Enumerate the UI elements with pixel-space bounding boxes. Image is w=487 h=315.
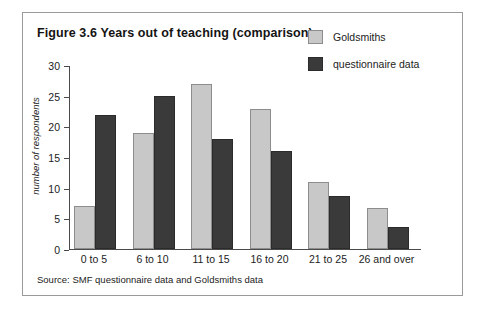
legend-swatch-icon-goldsmiths xyxy=(308,30,323,44)
y-axis-tick: 0 xyxy=(69,250,70,251)
y-axis-tick-label: 30 xyxy=(48,60,60,72)
bar-questionnaire-data xyxy=(212,139,233,249)
bar-questionnaire-data xyxy=(271,151,292,249)
y-axis-tick-mark xyxy=(64,189,69,190)
bar-questionnaire-data xyxy=(388,227,409,249)
bar-goldsmiths xyxy=(367,208,388,249)
chart-plot-area: number of respondents 051015202530 0 to … xyxy=(69,54,441,250)
bar-goldsmiths xyxy=(308,182,329,249)
bar-group xyxy=(74,66,116,249)
chart-bars xyxy=(70,66,421,249)
figure-page: Figure 3.6 Years out of teaching (compar… xyxy=(0,0,487,315)
y-axis-tick-mark xyxy=(64,97,69,98)
bar-group xyxy=(191,66,233,249)
y-axis-tick-label: 25 xyxy=(48,91,60,103)
figure-frame: Figure 3.6 Years out of teaching (compar… xyxy=(22,12,463,296)
y-axis-tick-label: 10 xyxy=(48,183,60,195)
bar-questionnaire-data xyxy=(154,96,175,249)
page-title: Figure 3.6 Years out of teaching (compar… xyxy=(37,26,313,40)
x-axis-line xyxy=(69,249,421,250)
bar-goldsmiths xyxy=(250,109,271,249)
bar-group xyxy=(133,66,175,249)
bar-group xyxy=(250,66,292,249)
y-axis-tick-label: 20 xyxy=(48,121,60,133)
source-note: Source: SMF questionnaire data and Golds… xyxy=(37,274,263,285)
bar-group xyxy=(308,66,350,249)
bar-goldsmiths xyxy=(191,84,212,249)
x-axis-label: 26 and over xyxy=(352,253,422,265)
y-axis-tick-mark xyxy=(64,66,69,67)
y-axis-title: number of respondents xyxy=(30,97,41,195)
y-axis-tick-mark xyxy=(64,158,69,159)
y-axis-tick-mark xyxy=(64,127,69,128)
bar-questionnaire-data xyxy=(95,115,116,249)
bar-group xyxy=(367,66,409,249)
bar-goldsmiths xyxy=(74,206,95,249)
legend-label-goldsmiths: Goldsmiths xyxy=(333,31,386,43)
y-axis-tick-label: 15 xyxy=(48,152,60,164)
y-axis-tick-mark xyxy=(64,219,69,220)
legend-item-goldsmiths: Goldsmiths xyxy=(308,30,468,44)
y-axis-tick-label: 5 xyxy=(54,213,60,225)
bar-goldsmiths xyxy=(133,133,154,249)
y-axis-tick-mark xyxy=(64,250,69,251)
bar-questionnaire-data xyxy=(329,196,350,249)
chart-axes: 051015202530 0 to 56 to 1011 to 1516 to … xyxy=(69,66,441,250)
